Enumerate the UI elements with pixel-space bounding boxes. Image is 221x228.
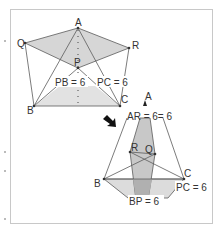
label-c: C [121, 94, 128, 105]
annotation-pb: PB = 6 [55, 77, 86, 88]
label-a: A [75, 17, 82, 28]
label-q: Q [17, 38, 25, 49]
label-r: R [132, 40, 139, 51]
top-figure: A Q R P B C PB = 6 PC = 6 [17, 17, 139, 116]
shaded-base-region [34, 86, 120, 106]
label-p: P [74, 57, 81, 68]
annotation-pc: PC = 6 [97, 77, 128, 88]
geometry-diagram: A Q R P B C PB = 6 PC = 6 A [0, 0, 221, 228]
bottom-figure: A AR = 6= 6 R Q B C PC = 6 BP = 6 [94, 91, 211, 207]
transform-arrow-icon [103, 115, 116, 127]
label-c: C [184, 168, 191, 179]
annotation-ar: AR = 6= 6 [127, 111, 172, 122]
label-r: R [131, 142, 138, 153]
label-b: B [27, 105, 34, 116]
label-a: A [145, 91, 152, 102]
label-q: Q [145, 144, 153, 155]
edge-qb [25, 43, 34, 106]
label-b: B [94, 178, 101, 189]
annotation-pc: PC = 6 [176, 182, 207, 193]
annotation-bp: BP = 6 [129, 196, 160, 207]
